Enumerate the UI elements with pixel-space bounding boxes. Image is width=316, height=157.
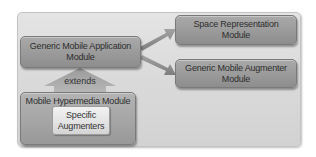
diagram-canvas: extends Generic Mobile Application Modul… (0, 0, 316, 157)
specific-augmenters-line1: Specific (58, 110, 105, 121)
space-module-line2: Module (193, 30, 278, 41)
specific-augmenters-line2: Augmenters (58, 121, 105, 132)
specific-augmenters-box: Specific Augmenters (52, 106, 110, 135)
extends-label: extends (42, 76, 118, 86)
augmenter-module-line1: Generic Mobile Augmenter (185, 63, 287, 74)
generic-mobile-application-module: Generic Mobile Application Module (20, 36, 141, 68)
space-module-line1: Space Representation (193, 19, 278, 30)
main-module-line2: Module (30, 52, 131, 63)
generic-mobile-augmenter-module: Generic Mobile Augmenter Module (175, 59, 297, 88)
space-representation-module: Space Representation Module (175, 15, 297, 45)
augmenter-module-line2: Module (185, 74, 287, 85)
main-module-line1: Generic Mobile Application (30, 41, 131, 52)
